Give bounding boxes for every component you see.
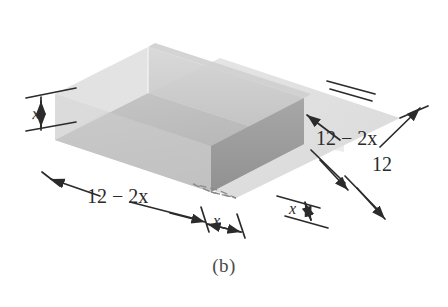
dim-lead-12m2x <box>311 150 345 183</box>
label-cut-x-right: x <box>289 200 296 218</box>
dim-tick-right-top <box>277 196 320 208</box>
label-cut-x-bottom: x <box>213 212 220 230</box>
label-base-right: 12 − 2x <box>316 127 377 150</box>
label-sheet-side: 12 <box>372 153 392 176</box>
dim-arrow-bottom-right <box>170 213 205 222</box>
figure-caption: (b) <box>0 255 448 277</box>
dim-cut-right <box>277 196 328 228</box>
dim-arrow-12-down <box>357 188 385 219</box>
dim-cut-bottom <box>201 207 245 238</box>
label-cut-x-right-text: x <box>289 200 296 217</box>
label-base-bottom: 12 − 2x <box>87 185 148 208</box>
dim-tick-12-corner <box>400 106 428 118</box>
dim-tick-12-top <box>327 81 375 94</box>
label-height-x: x <box>31 104 40 125</box>
dim-arrow-12m2x-down <box>320 160 348 190</box>
label-height-x-text: x <box>31 104 40 124</box>
dim-tick-cut-right <box>237 214 245 238</box>
dim-tick-cut-left <box>201 207 209 232</box>
label-cut-x-bottom-text: x <box>213 212 220 229</box>
